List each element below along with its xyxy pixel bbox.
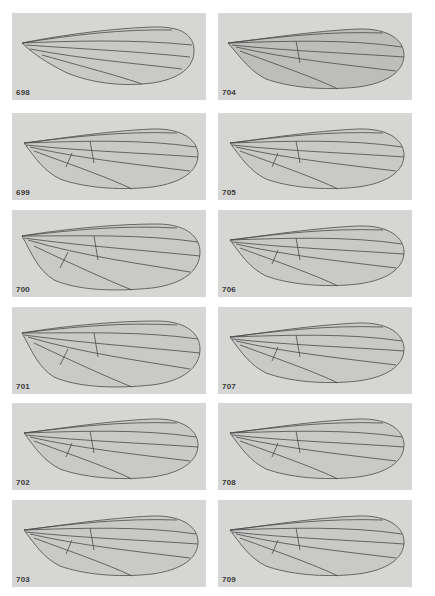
figure-number-label: 705 [222, 188, 236, 197]
wing-image [12, 113, 206, 200]
wing-panel-703: 703 [12, 500, 206, 587]
wing-panel-709: 709 [218, 500, 412, 587]
figure-number-label: 699 [16, 188, 30, 197]
figure-number-label: 709 [222, 575, 236, 584]
wing-panel-707: 707 [218, 307, 412, 394]
figure-number-label: 698 [16, 88, 30, 97]
wing-panel-706: 706 [218, 210, 412, 297]
wing-plate-figure: 698 699 700 701 702 703 [0, 0, 435, 596]
figure-number-label: 708 [222, 478, 236, 487]
figure-number-label: 702 [16, 478, 30, 487]
figure-number-label: 706 [222, 285, 236, 294]
figure-number-label: 707 [222, 382, 236, 391]
wing-image [218, 307, 412, 394]
wing-panel-705: 705 [218, 113, 412, 200]
wing-image [12, 13, 206, 100]
wing-panel-702: 702 [12, 403, 206, 490]
wing-panel-704: 704 [218, 13, 412, 100]
wing-panel-701: 701 [12, 307, 206, 394]
wing-panel-700: 700 [12, 210, 206, 297]
wing-panel-708: 708 [218, 403, 412, 490]
wing-panel-699: 699 [12, 113, 206, 200]
wing-image [12, 307, 206, 394]
wing-image [218, 500, 412, 587]
wing-image [218, 210, 412, 297]
figure-number-label: 701 [16, 382, 30, 391]
wing-image [218, 13, 412, 100]
wing-image [218, 403, 412, 490]
figure-number-label: 704 [222, 88, 236, 97]
figure-number-label: 700 [16, 285, 30, 294]
figure-number-label: 703 [16, 575, 30, 584]
wing-panel-698: 698 [12, 13, 206, 100]
wing-image [12, 210, 206, 297]
wing-image [12, 500, 206, 587]
wing-image [12, 403, 206, 490]
wing-image [218, 113, 412, 200]
